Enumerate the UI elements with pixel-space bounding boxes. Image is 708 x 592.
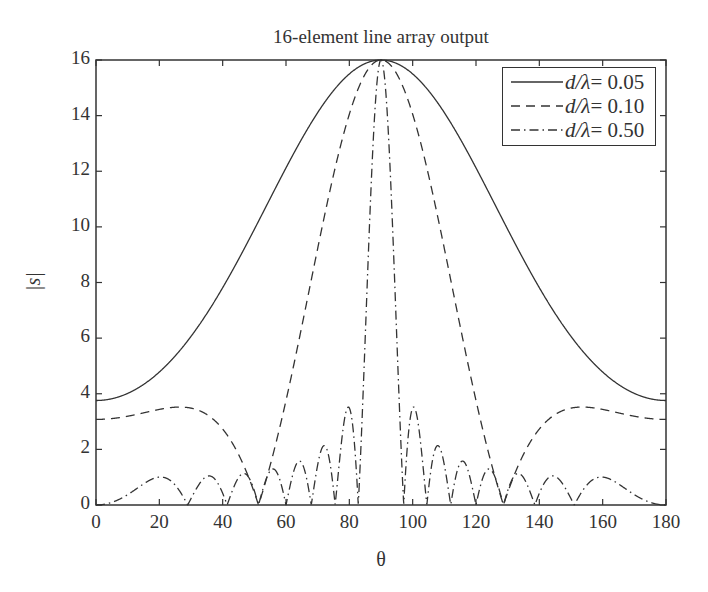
legend-value: = 0.50 xyxy=(590,118,644,142)
x-tick-label: 160 xyxy=(573,511,633,533)
y-tick-label: 16 xyxy=(40,47,90,69)
legend-item-dashed: d/λ= 0.10 xyxy=(503,94,655,118)
x-tick-label: 120 xyxy=(446,511,506,533)
y-tick-label: 12 xyxy=(40,158,90,180)
x-tick-label: 180 xyxy=(636,511,696,533)
x-tick-label: 80 xyxy=(319,511,379,533)
y-tick-label: 4 xyxy=(40,381,90,403)
x-tick-label: 140 xyxy=(509,511,569,533)
legend-value: = 0.05 xyxy=(590,70,644,94)
y-tick-label: 6 xyxy=(40,325,90,347)
solid-line-icon xyxy=(511,76,565,88)
x-tick-label: 100 xyxy=(383,511,443,533)
y-tick-label: 14 xyxy=(40,103,90,125)
x-tick-label: 0 xyxy=(66,511,126,533)
legend-item-dashdot: d/λ= 0.50 xyxy=(503,118,655,142)
legend-var: d/λ xyxy=(565,70,590,94)
y-tick-label: 8 xyxy=(40,270,90,292)
legend-var: d/λ xyxy=(565,94,590,118)
dashdot-line-icon xyxy=(511,124,565,136)
x-tick-label: 40 xyxy=(193,511,253,533)
legend: d/λ= 0.05 d/λ= 0.10 d/λ= 0.50 xyxy=(502,67,656,146)
y-tick-label: 10 xyxy=(40,214,90,236)
legend-item-solid: d/λ= 0.05 xyxy=(503,70,655,94)
y-tick-label: 0 xyxy=(40,492,90,514)
x-tick-label: 60 xyxy=(256,511,316,533)
legend-value: = 0.10 xyxy=(590,94,644,118)
chart-title: 16-element line array output xyxy=(96,26,666,48)
x-axis-label: θ xyxy=(96,548,666,571)
x-tick-label: 20 xyxy=(129,511,189,533)
y-tick-label: 2 xyxy=(40,436,90,458)
dashed-line-icon xyxy=(511,100,565,112)
legend-var: d/λ xyxy=(565,118,590,142)
